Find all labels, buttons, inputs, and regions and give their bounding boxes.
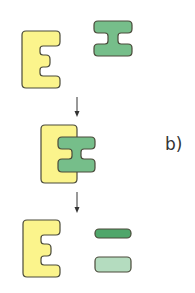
- substrate-shape-top: [94, 21, 132, 56]
- product-light-bar: [95, 257, 131, 272]
- enzyme-shape-bottom: [23, 220, 60, 277]
- arrow-down-icon: [75, 192, 80, 213]
- arrow-down-icon: [75, 97, 80, 117]
- enzyme-shape-top: [22, 31, 60, 88]
- panel-label: b): [165, 134, 182, 154]
- product-dark-bar: [95, 229, 131, 238]
